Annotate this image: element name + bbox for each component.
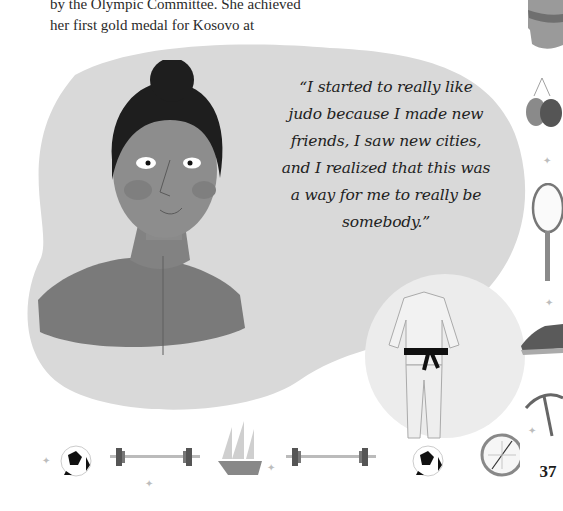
barbell-icon: [110, 448, 200, 466]
barbell-icon: [286, 448, 376, 466]
sailing-ship-icon: [218, 421, 262, 475]
sneaker-icon: [519, 320, 563, 356]
sparkle-icon: ✦: [42, 455, 50, 466]
bottom-icon-row: [0, 415, 520, 495]
quote-line: and I realized that this was: [268, 155, 504, 182]
quote-line: judo because I made new: [268, 101, 504, 128]
compass-icon: [482, 435, 520, 475]
sparkle-icon: ✦: [528, 425, 536, 436]
boxing-gloves-icon: [524, 76, 563, 131]
quote-line: friends, I saw new cities,: [268, 128, 504, 155]
soccer-ball-icon: [61, 446, 91, 476]
sparkle-icon: ✦: [543, 155, 551, 166]
page-number: 37: [534, 462, 562, 482]
quote-line: somebody.”: [268, 209, 504, 236]
sparkle-icon: ✦: [267, 462, 275, 473]
racket-icon: [528, 183, 563, 283]
soccer-ball-icon: [413, 446, 443, 476]
quote-line: a way for me to really be: [268, 182, 504, 209]
sparkle-icon: ✦: [545, 297, 553, 308]
quote-block: “I started to really like judo because I…: [268, 74, 504, 236]
portrait-illustration: [20, 60, 250, 360]
sparkle-icon: ✦: [145, 478, 153, 489]
quote-line: “I started to really like: [268, 74, 504, 101]
leotard-icon: [522, 0, 563, 50]
